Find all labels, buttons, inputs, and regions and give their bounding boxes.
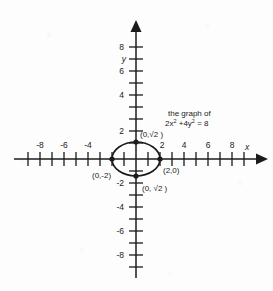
annotation-term1: 2x [165, 119, 173, 128]
point-bottom-0-neg-sqrt2 [133, 173, 138, 178]
coordinate-plane-svg: -8 -6 -4 2 4 6 8 8 6 4 2 -2 -4 -6 -8 y x… [0, 0, 273, 291]
point-label-left: (0,-2) [92, 171, 111, 180]
point-label-top: (0,√2 ) [140, 130, 163, 139]
x-tick-label-8: 8 [230, 140, 235, 150]
x-axis-label: x [244, 142, 250, 152]
y-tick-label-8: 8 [119, 42, 124, 52]
x-tick-label-4: 4 [182, 140, 187, 150]
y-axis-arrowhead [131, 20, 142, 32]
x-axis-arrowhead [256, 154, 268, 165]
y-tick-label-6: 6 [119, 66, 124, 76]
annotation-term2: +4y [177, 119, 192, 128]
x-tick-label-neg8: -8 [36, 140, 44, 150]
point-left-neg2-0 [109, 156, 114, 161]
y-tick-label-neg2: -2 [116, 178, 124, 188]
point-label-bottom: (0, √2 ) [142, 184, 168, 193]
point-right-2-0 [157, 156, 162, 161]
x-tick-label-2: 2 [160, 140, 165, 150]
y-tick-label-2: 2 [119, 126, 124, 136]
y-tick-label-neg8: -8 [116, 250, 124, 260]
y-tick-label-neg4: -4 [116, 202, 124, 212]
annotation-line1: the graph of [168, 109, 211, 118]
graph-annotation: the graph of 2x2 +4y2 = 8 [165, 109, 211, 128]
annotation-term3: = 8 [195, 119, 209, 128]
point-label-right: (2,0) [163, 166, 180, 175]
y-tick-label-neg6: -6 [116, 226, 124, 236]
annotation-line2: 2x2 +4y2 = 8 [165, 118, 209, 128]
x-tick-label-neg6: -6 [60, 140, 68, 150]
x-tick-label-neg4: -4 [84, 140, 92, 150]
point-top-0-sqrt2 [133, 139, 138, 144]
y-axis-label: y [121, 54, 127, 64]
y-tick-label-4: 4 [119, 90, 124, 100]
x-tick-label-6: 6 [206, 140, 211, 150]
graph-figure: -8 -6 -4 2 4 6 8 8 6 4 2 -2 -4 -6 -8 y x… [0, 0, 273, 291]
